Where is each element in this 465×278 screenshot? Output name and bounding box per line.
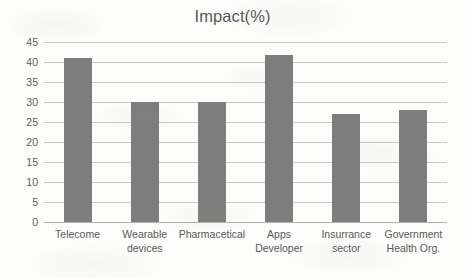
bar-3 [265, 55, 293, 222]
gridline-0 [44, 222, 447, 223]
gridline-35 [44, 82, 447, 83]
x-tick-label-4: Insurrancesector [308, 228, 385, 255]
x-tick-label-1-line-1: devices [106, 242, 183, 256]
bar-4 [332, 114, 360, 222]
x-tick-label-3-line-0: Apps [241, 228, 318, 242]
x-tick-label-0: Telecome [39, 228, 116, 242]
bar-1 [131, 102, 159, 222]
gridline-45 [44, 42, 447, 43]
x-tick-label-2: Pharmacetical [173, 228, 250, 242]
gridline-30 [44, 102, 447, 103]
y-tick-label-10: 10 [0, 177, 38, 188]
gridline-15 [44, 162, 447, 163]
gridline-20 [44, 142, 447, 143]
bar-0 [64, 58, 92, 222]
y-tick-label-25: 25 [0, 117, 38, 128]
bar-5 [399, 110, 427, 222]
y-tick-label-40: 40 [0, 57, 38, 68]
gridline-5 [44, 202, 447, 203]
bar-chart: Impact(%) 051015202530354045 TelecomeWea… [0, 0, 465, 278]
y-tick-label-35: 35 [0, 77, 38, 88]
gridline-25 [44, 122, 447, 123]
x-tick-label-1-line-0: Wearable [106, 228, 183, 242]
x-tick-label-4-line-1: sector [308, 242, 385, 256]
y-tick-label-0: 0 [0, 217, 38, 228]
plot-area [44, 42, 447, 222]
y-tick-label-20: 20 [0, 137, 38, 148]
bar-2 [198, 102, 226, 222]
gridline-10 [44, 182, 447, 183]
x-tick-label-0-line-0: Telecome [39, 228, 116, 242]
chart-title: Impact(%) [0, 7, 465, 26]
x-axis-tick-labels: TelecomeWearabledevicesPharmaceticalApps… [44, 228, 447, 274]
x-tick-label-2-line-0: Pharmacetical [173, 228, 250, 242]
x-tick-label-5-line-1: Health Org. [375, 242, 452, 256]
x-tick-label-4-line-0: Insurrance [308, 228, 385, 242]
x-tick-label-3: AppsDeveloper [241, 228, 318, 255]
x-tick-label-3-line-1: Developer [241, 242, 318, 256]
x-tick-label-5: GovernmentHealth Org. [375, 228, 452, 255]
gridline-40 [44, 62, 447, 63]
y-tick-label-30: 30 [0, 97, 38, 108]
x-tick-label-5-line-0: Government [375, 228, 452, 242]
x-tick-label-1: Wearabledevices [106, 228, 183, 255]
y-tick-label-5: 5 [0, 197, 38, 208]
y-axis-tick-labels: 051015202530354045 [0, 42, 38, 222]
y-tick-label-15: 15 [0, 157, 38, 168]
y-tick-label-45: 45 [0, 37, 38, 48]
